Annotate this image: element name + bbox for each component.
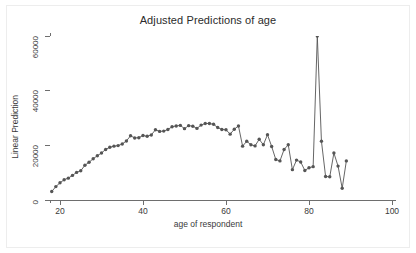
- data-point: [154, 128, 157, 131]
- data-point: [71, 174, 74, 177]
- data-point: [233, 128, 236, 131]
- data-point: [270, 145, 273, 148]
- x-tick-label-4: 100: [372, 206, 412, 216]
- series-markers-linear-prediction: [50, 36, 348, 193]
- data-point: [50, 190, 53, 193]
- data-point: [67, 176, 70, 179]
- data-point: [307, 166, 310, 169]
- x-axis-title: age of respondent: [0, 219, 416, 229]
- data-point: [303, 169, 306, 172]
- x-tick-2: [226, 200, 227, 205]
- data-point: [125, 139, 128, 142]
- data-point: [162, 129, 165, 132]
- data-point: [253, 144, 256, 147]
- data-point: [87, 161, 90, 164]
- data-point: [320, 140, 323, 143]
- data-point: [96, 154, 99, 157]
- data-point: [266, 133, 269, 136]
- data-point: [187, 124, 190, 127]
- data-point: [170, 125, 173, 128]
- data-point: [282, 148, 285, 151]
- data-point: [145, 135, 148, 138]
- data-point: [100, 151, 103, 154]
- data-point: [75, 171, 78, 174]
- y-tick-label-3: 60000: [32, 36, 40, 58]
- data-point: [328, 175, 331, 178]
- data-point: [332, 151, 335, 154]
- data-point: [208, 122, 211, 125]
- data-point: [121, 142, 124, 145]
- x-tick-label-0: 20: [40, 206, 80, 216]
- prediction-line-plot: [50, 36, 393, 200]
- data-point: [129, 134, 132, 137]
- data-point: [199, 123, 202, 126]
- data-point: [311, 165, 314, 168]
- x-tick-0: [60, 200, 61, 205]
- data-point: [183, 127, 186, 130]
- data-point: [112, 144, 115, 147]
- data-point: [316, 36, 319, 38]
- x-tick-label-3: 80: [289, 206, 329, 216]
- data-point: [224, 128, 227, 131]
- data-point: [195, 127, 198, 130]
- data-point: [133, 136, 136, 139]
- x-tick-label-1: 40: [123, 206, 163, 216]
- y-tick-label-1-wrap: 20000: [0, 145, 42, 146]
- data-point: [166, 128, 169, 131]
- y-axis-title: Linear Prediction: [10, 0, 20, 253]
- data-point: [191, 125, 194, 128]
- data-point: [241, 144, 244, 147]
- chart-screenshot: Adjusted Predictions of age Linear Predi…: [0, 0, 416, 253]
- data-point: [228, 132, 231, 135]
- data-point: [295, 158, 298, 161]
- data-point: [287, 143, 290, 146]
- data-point: [237, 124, 240, 127]
- data-point: [220, 128, 223, 131]
- data-point: [104, 148, 107, 151]
- data-point: [79, 169, 82, 172]
- y-tick-label-1: 20000: [32, 145, 40, 167]
- data-point: [58, 181, 61, 184]
- x-axis-line: [47, 200, 396, 201]
- data-point: [245, 140, 248, 143]
- data-point: [62, 178, 65, 181]
- data-point: [204, 122, 207, 125]
- data-point: [175, 124, 178, 127]
- data-point: [345, 159, 348, 162]
- data-point: [249, 143, 252, 146]
- data-point: [278, 159, 281, 162]
- data-point: [108, 146, 111, 149]
- y-axis-title-text: Linear Prediction: [10, 95, 20, 159]
- data-point: [54, 185, 57, 188]
- series-line-linear-prediction: [52, 36, 347, 192]
- data-point: [158, 130, 161, 133]
- data-point: [179, 124, 182, 127]
- y-tick-label-0-wrap: 0: [0, 200, 42, 201]
- plot-region: [50, 36, 393, 200]
- x-tick-label-2: 60: [206, 206, 246, 216]
- data-point: [291, 168, 294, 171]
- data-point: [83, 164, 86, 167]
- data-point: [274, 158, 277, 161]
- data-point: [216, 126, 219, 129]
- data-point: [150, 133, 153, 136]
- data-point: [336, 164, 339, 167]
- data-point: [137, 136, 140, 139]
- data-point: [212, 123, 215, 126]
- x-tick-3: [309, 200, 310, 205]
- x-tick-1: [143, 200, 144, 205]
- data-point: [141, 134, 144, 137]
- data-point: [258, 138, 261, 141]
- data-point: [262, 143, 265, 146]
- data-point: [324, 175, 327, 178]
- y-tick-label-3-wrap: 60000: [0, 36, 42, 37]
- chart-title: Adjusted Predictions of age: [0, 14, 416, 26]
- data-point: [116, 144, 119, 147]
- data-point: [341, 187, 344, 190]
- x-tick-4: [392, 200, 393, 205]
- y-tick-label-2: 40000: [32, 90, 40, 112]
- y-tick-label-2-wrap: 40000: [0, 90, 42, 91]
- y-tick-label-0: 0: [32, 200, 40, 204]
- data-point: [299, 160, 302, 163]
- data-point: [92, 157, 95, 160]
